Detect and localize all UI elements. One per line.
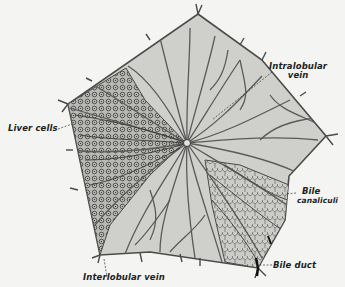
label-bile-canaliculi: Bile canaliculi xyxy=(297,187,338,205)
label-bile-duct: Bile duct xyxy=(273,261,316,270)
label-liver-cells-text: Liver cells xyxy=(8,123,58,133)
label-intralobular-vein: Intralobular vein xyxy=(269,62,327,80)
central-vein xyxy=(184,140,191,147)
label-bile-duct-text: Bile duct xyxy=(273,260,316,270)
label-intralobular-vein-line2: vein xyxy=(269,71,327,80)
label-interlobular-vein-text: Interlobular vein xyxy=(83,272,165,282)
liver-lobule-diagram xyxy=(0,0,345,287)
label-interlobular-vein: Interlobular vein xyxy=(83,273,165,282)
label-bile-canaliculi-line2: canaliculi xyxy=(297,196,338,205)
label-liver-cells: Liver cells xyxy=(8,124,58,133)
label-bile-canaliculi-line1: Bile xyxy=(297,187,338,196)
